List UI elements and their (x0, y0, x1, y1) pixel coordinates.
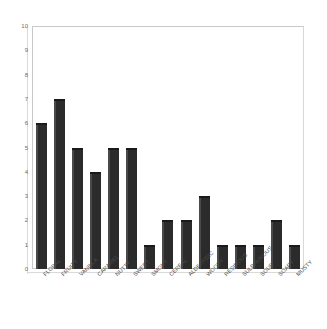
bar-slot (214, 26, 232, 269)
bar-slot (286, 26, 304, 269)
bar-slot (159, 26, 177, 269)
bar-slot (268, 26, 286, 269)
bar-slot (232, 26, 250, 269)
x-axis-label-slot: ALDEHYDIC (178, 270, 196, 329)
x-axis-label-slot: FRUITY (51, 270, 69, 329)
y-axis-tick-label: 1 (6, 242, 28, 248)
x-axis-label-slot: SOAPY (268, 270, 286, 329)
bar-slot (141, 26, 159, 269)
bar-slot (51, 26, 69, 269)
bar[interactable] (271, 220, 282, 269)
x-axis-label-slot: MUSTY (286, 270, 304, 329)
y-axis-tick-label: 9 (6, 47, 28, 53)
x-axis-label-slot: SMOKY (141, 270, 159, 329)
x-axis-label-slot: RESINOUS (214, 270, 232, 329)
bar-slot (105, 26, 123, 269)
y-axis-tick-label: 4 (6, 169, 28, 175)
bar[interactable] (126, 148, 137, 270)
x-axis-label-slot: FLORAL (33, 270, 51, 329)
bar[interactable] (72, 148, 83, 270)
x-axis-label-slot: CEREAL (159, 270, 177, 329)
y-axis-tick-label: 0 (6, 266, 28, 272)
x-axis: FLORALFRUITYVANILLACARAMELNUTTYSWEETSMOK… (33, 270, 304, 329)
x-axis-label-slot: WOODY (196, 270, 214, 329)
bar-slot (196, 26, 214, 269)
x-axis-label-slot: SWEET (123, 270, 141, 329)
bar-slot (33, 26, 51, 269)
y-axis-tick-label: 6 (6, 120, 28, 126)
bar[interactable] (36, 123, 47, 269)
x-axis-label-slot: VANILLA (69, 270, 87, 329)
bar[interactable] (90, 172, 101, 269)
bar[interactable] (54, 99, 65, 269)
x-axis-label-slot: CARAMEL (87, 270, 105, 329)
x-axis-label-slot: NUTTY (105, 270, 123, 329)
bar-slot (250, 26, 268, 269)
bar-chart: 109876543210 FLORALFRUITYVANILLACARAMELN… (0, 0, 327, 329)
y-axis-tick-label: 5 (6, 145, 28, 151)
y-axis-tick-label: 2 (6, 217, 28, 223)
bar-slot (123, 26, 141, 269)
y-axis-tick-label: 3 (6, 193, 28, 199)
y-axis-tick-label: 10 (6, 23, 28, 29)
bars-layer (33, 26, 304, 269)
bar-slot (178, 26, 196, 269)
bar-slot (87, 26, 105, 269)
bar-slot (69, 26, 87, 269)
x-axis-label-slot: SULPHUROUS (232, 270, 250, 329)
y-axis-tick-label: 7 (6, 96, 28, 102)
x-axis-label-slot: SOUR (250, 270, 268, 329)
y-axis: 109876543210 (0, 0, 28, 329)
y-axis-tick-label: 8 (6, 72, 28, 78)
bar[interactable] (108, 148, 119, 270)
